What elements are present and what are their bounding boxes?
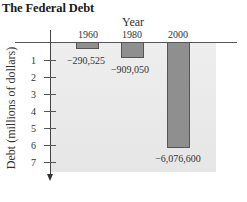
bar-label-1980: −909,050 [111,64,149,75]
y-tick-mark-7 [44,162,56,163]
y-axis-arrow-icon [47,174,53,181]
x-tick-2000: 2000 [168,29,188,40]
y-axis-line [50,30,51,176]
y-tick-mark-3 [44,94,56,95]
y-tick-label-1: 1 [31,55,36,66]
y-tick-label-6: 6 [31,140,36,151]
x-tick-1980: 1980 [122,29,142,40]
y-tick-mark-6 [44,145,56,146]
chart-title: The Federal Debt [2,1,94,16]
y-tick-label-3: 3 [31,89,36,100]
y-tick-mark-5 [44,128,56,129]
y-tick-mark-4 [44,111,56,112]
bar-label-2000: −6,076,600 [155,153,201,164]
bar-2000 [167,42,190,148]
bar-1960 [76,42,99,49]
y-tick-mark-2 [44,77,56,78]
x-axis-label: Year [122,15,144,30]
x-axis-line [15,42,237,43]
y-tick-mark-1 [44,60,56,61]
x-tick-1960: 1960 [78,29,98,40]
y-axis-label: Debt (millions of dollars) [4,47,19,169]
bar-1980 [121,42,144,58]
y-tick-label-2: 2 [31,72,36,83]
y-tick-label-5: 5 [31,123,36,134]
y-tick-label-7: 7 [31,157,36,168]
y-tick-label-4: 4 [31,106,36,117]
bar-label-1960: −290,525 [67,55,105,66]
